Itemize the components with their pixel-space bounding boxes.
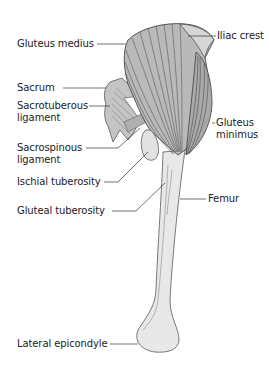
label-sacrotuberous-ligament-line2: ligament [17,112,60,124]
label-femur: Femur [208,193,239,205]
label-ischial-tuberosity: Ischial tuberosity [17,176,101,188]
label-sacrospinous-ligament-line1: Sacrospinous [17,142,82,154]
hip-thigh-illustration [0,0,269,377]
label-gluteal-tuberosity: Gluteal tuberosity [17,205,105,217]
femur-bone [137,150,185,352]
label-gluteus-medius: Gluteus medius [17,38,94,50]
label-sacrotuberous-ligament-line1: Sacrotuberous [17,100,88,112]
label-gluteus-minimus-line2: minimus [216,129,258,141]
label-sacrum: Sacrum [17,82,55,94]
label-lateral-epicondyle: Lateral epicondyle [17,338,108,350]
label-sacrospinous-ligament-line2: ligament [17,154,60,166]
anatomy-diagram: Gluteus medius Iliac crest Sacrum Sacrot… [0,0,269,377]
label-iliac-crest: Iliac crest [217,30,264,42]
label-gluteus-minimus-line1: Gluteus [216,117,254,129]
